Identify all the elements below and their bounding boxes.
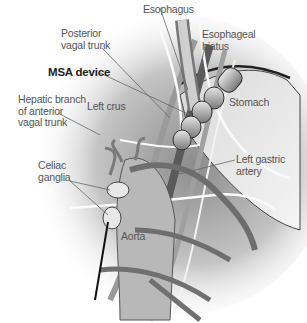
label-celiac-ganglia: Celiac ganglia: [38, 160, 70, 183]
label-left-gastric-artery: Left gastric artery: [236, 154, 285, 177]
label-posterior-vagal-trunk: Posterior vagal trunk: [61, 28, 110, 51]
label-hepatic-branch: Hepatic branch of anterior vagal trunk: [18, 94, 86, 129]
label-aorta: Aorta: [121, 231, 145, 243]
anatomy-diagram: Esophagus Posterior vagal trunk Esophage…: [0, 0, 307, 323]
label-stomach: Stomach: [229, 97, 269, 109]
label-esophagus: Esophagus: [143, 4, 194, 16]
label-msa-device: MSA device: [48, 67, 110, 79]
label-left-crus: Left crus: [87, 101, 125, 113]
label-esophageal-hiatus: Esophageal hiatus: [202, 29, 255, 52]
